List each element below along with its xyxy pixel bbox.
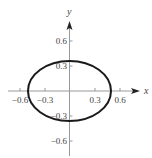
x-tick-label: −0.3 — [37, 95, 54, 105]
x-axis-label: x — [143, 85, 149, 96]
y-tick-label: −0.6 — [51, 136, 68, 146]
chart-canvas: −0.6 −0.3 0.3 0.6 0.6 0.3 −0.3 −0.6 x y — [0, 0, 152, 158]
x-tick-label: 0.3 — [89, 95, 101, 105]
x-tick-label: −0.6 — [12, 95, 29, 105]
y-axis-label: y — [66, 6, 72, 17]
y-tick-label: 0.6 — [56, 36, 68, 46]
x-tick-label: 0.6 — [114, 95, 126, 105]
